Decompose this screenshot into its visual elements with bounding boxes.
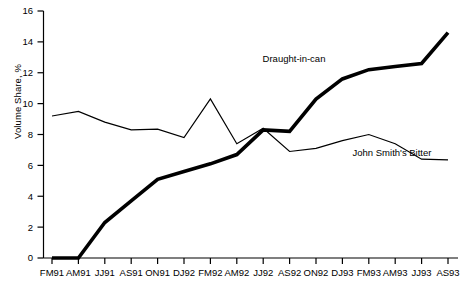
x-tick-label: FM92 [198,267,222,278]
y-tick-label: 0 [28,252,33,263]
series-annotations: Draught-in-canJohn Smith's Bitter [263,53,432,158]
x-tick-label: AS93 [436,267,459,278]
series-label-draught-in-can: Draught-in-can [263,53,326,64]
y-tick-label: 10 [22,98,33,109]
x-tick-label: AM91 [66,267,91,278]
x-tick-label: DJ93 [331,267,353,278]
y-tick-label: 8 [28,129,33,140]
x-tick-label: JJ92 [253,267,273,278]
x-axis-tick-labels: FM91AM91JJ91AS91ON91DJ92FM92AM92JJ92AS92… [40,267,460,278]
y-tick-label: 2 [28,222,33,233]
line-chart-plot: 0246810121416 FM91AM91JJ91AS91ON91DJ92FM… [0,0,466,282]
y-axis-ticks [38,11,44,258]
chart-container: Volume Share, % 0246810121416 FM91AM91JJ… [0,0,466,282]
x-tick-label: DJ92 [173,267,195,278]
series-label-john-smith-s-bitter: John Smith's Bitter [353,147,432,158]
x-tick-label: JJ91 [95,267,115,278]
y-tick-label: 12 [22,67,33,78]
x-tick-label: AM92 [224,267,249,278]
y-tick-label: 6 [28,160,33,171]
x-tick-label: ON92 [304,267,329,278]
y-tick-label: 16 [22,5,33,16]
series-line-draught-in-can [52,33,448,258]
y-tick-label: 4 [28,191,33,202]
data-series-group [52,33,448,258]
x-tick-label: AS91 [120,267,143,278]
x-tick-label: AS92 [278,267,301,278]
x-tick-label: JJ93 [412,267,432,278]
y-tick-label: 14 [22,36,33,47]
x-tick-label: AM93 [383,267,408,278]
x-tick-label: FM93 [357,267,381,278]
y-axis: 0246810121416 [22,5,43,263]
x-tick-label: FM91 [40,267,64,278]
x-axis-ticks [52,258,448,264]
y-axis-tick-labels: 0246810121416 [22,5,33,263]
x-tick-label: ON91 [145,267,170,278]
x-axis: FM91AM91JJ91AS91ON91DJ92FM92AM92JJ92AS92… [40,258,460,278]
